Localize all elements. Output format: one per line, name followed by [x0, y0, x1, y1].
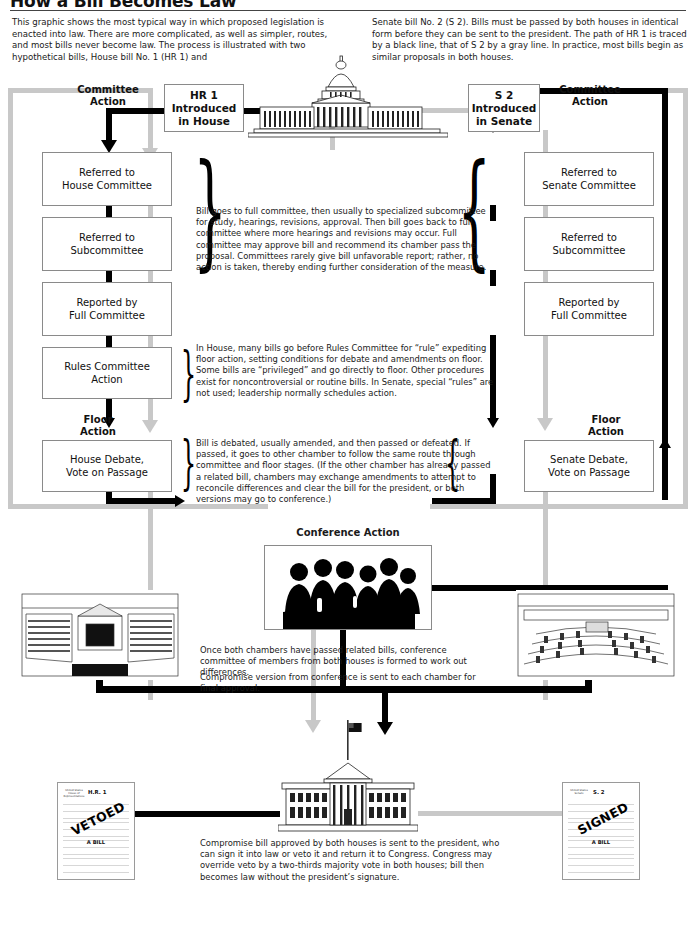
a-bill-label-hr1: A BILL	[58, 839, 134, 845]
hr1-path-right-rail-low	[662, 448, 668, 500]
hr1-arrow-up-right-rail	[659, 438, 671, 448]
house-floor-action-label: Floor Action	[48, 414, 148, 438]
senate-step-reported-full-committee: Reported by Full Committee	[524, 282, 654, 336]
s2-path-wh-out	[418, 811, 578, 816]
hr1-path-wh-to-veto	[118, 811, 280, 817]
annotation-rules: In House, many bills go before Rules Com…	[196, 343, 494, 399]
s2-path-left-rail	[8, 88, 13, 508]
american-flag-icon	[336, 720, 362, 760]
house-step-debate-vote: House Debate, Vote on Passage	[42, 440, 172, 492]
brace-house-rules: }	[181, 345, 197, 403]
s2-arrow-senate-floor	[537, 418, 553, 431]
vetoed-bill-document: United States House of Representatives H…	[57, 782, 135, 880]
hr1-arrow-senate-floor	[487, 418, 499, 428]
house-step-referred-subcommittee: Referred to Subcommittee	[42, 217, 172, 271]
hr1-introduced-box: HR 1 Introduced in House	[164, 84, 244, 132]
brace-house-floor: }	[181, 434, 197, 492]
signed-bill-document: United States Senate S. 2 SIGNED A BILL	[562, 782, 640, 880]
house-committee-action-label: Committee Action	[48, 84, 168, 108]
house-step-reported-full-committee: Reported by Full Committee	[42, 282, 172, 336]
annotation-president: Compromise bill approved by both houses …	[200, 838, 500, 883]
hr1-path-house-down	[106, 108, 112, 144]
hr1-path-right-rail	[662, 88, 668, 468]
hr1-path-intro-left	[106, 108, 168, 114]
house-step-referred-committee: Referred to House Committee	[42, 152, 172, 206]
house-step-rules-committee: Rules Committee Action	[42, 347, 172, 399]
a-bill-label-s2: A BILL	[563, 839, 639, 845]
conference-action-caption: Conference Action	[264, 527, 432, 538]
hr1-path-house-out-right	[106, 498, 178, 504]
senate-chamber-illustration	[516, 590, 676, 680]
title-divider	[10, 10, 686, 11]
bill-number-s2: S. 2	[593, 789, 605, 795]
bill-number-hr1: H.R. 1	[88, 789, 107, 795]
senate-seal-text: United States Senate	[568, 789, 590, 795]
s2-arrow-to-whitehouse	[305, 720, 321, 733]
s2-path-right-rail	[683, 88, 688, 508]
white-house-illustration	[278, 755, 418, 833]
senate-step-referred-committee: Referred to Senate Committee	[524, 152, 654, 206]
conference-committee-photo	[264, 545, 432, 630]
house-seal-text: United States House of Representatives	[63, 789, 85, 799]
senate-committee-action-label: Committee Action	[530, 84, 650, 108]
capitol-building-illustration	[248, 55, 448, 141]
house-chamber-illustration	[20, 590, 180, 680]
annotation-conference-2: Compromise version from conference is se…	[200, 672, 494, 694]
hr1-arrow-to-whitehouse	[377, 722, 393, 735]
senate-step-referred-subcommittee: Referred to Subcommittee	[524, 217, 654, 271]
annotation-floor: Bill is debated, usually amended, and th…	[196, 438, 498, 505]
annotation-committee: Bill goes to full committee, then usuall…	[196, 206, 494, 273]
senate-step-debate-vote: Senate Debate, Vote on Passage	[524, 440, 654, 492]
senate-floor-action-label: Floor Action	[556, 414, 656, 438]
